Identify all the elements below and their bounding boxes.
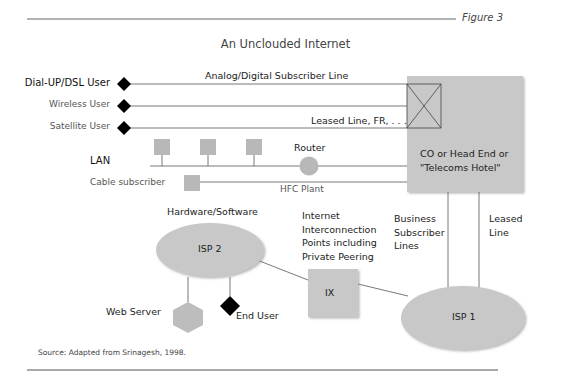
dialup-user-label: Dial-UP/DSL User (25, 77, 110, 88)
web-server-hexagon-icon (173, 302, 203, 333)
co-head-end-box (407, 76, 523, 192)
router-icon (300, 157, 319, 176)
satellite-user-diamond-icon (117, 121, 131, 135)
leased-line-fr-label: Leased Line, FR, . . . (311, 115, 407, 126)
interconnection-line: Points including (302, 236, 377, 250)
lan-host-icon (246, 139, 262, 166)
diagram-title: An Unclouded Internet (0, 37, 571, 51)
ix-isp1-link (358, 284, 408, 296)
hfc-plant-label: HFC Plant (280, 184, 324, 194)
interconnection-label: Internet Interconnection Points includin… (302, 209, 377, 263)
wireless-user-label: Wireless User (49, 99, 110, 109)
network-diagram (0, 0, 571, 389)
cable-subscriber-icon (184, 175, 200, 191)
hardware-software-label: Hardware/Software (167, 206, 258, 217)
lan-host-icon (200, 139, 216, 166)
leased-line-text: Line (489, 226, 523, 240)
cable-subscriber-label: Cable subscriber (90, 177, 165, 187)
leased-line-text: Leased (489, 212, 523, 226)
ix-label: IX (325, 287, 334, 298)
interconnection-line: Internet (302, 209, 377, 223)
business-subscriber-line-text: Lines (394, 239, 445, 253)
business-subscriber-line-text: Business (394, 212, 445, 226)
end-user-label: End User (236, 310, 279, 321)
interconnection-line: Private Peering (302, 250, 377, 264)
co-box-line1: CO or Head End or (420, 148, 509, 159)
wireless-user-diamond-icon (117, 99, 131, 113)
business-subscriber-line-text: Subscriber (394, 226, 445, 240)
router-label: Router (294, 142, 325, 153)
interconnection-line: Interconnection (302, 223, 377, 237)
dialup-user-diamond-icon (117, 77, 131, 91)
isp1-label: ISP 1 (452, 311, 476, 322)
source-caption: Source: Adapted from Srinagesh, 1998. (38, 348, 186, 357)
lan-label: LAN (90, 155, 110, 166)
figure-label: Figure 3 (462, 12, 503, 23)
web-server-label: Web Server (106, 306, 161, 317)
satellite-user-label: Satellite User (50, 121, 110, 131)
business-subscriber-label: Business Subscriber Lines (394, 212, 445, 253)
analog-digital-line-label: Analog/Digital Subscriber Line (205, 70, 348, 81)
leased-line-label: Leased Line (489, 212, 523, 239)
isp2-label: ISP 2 (198, 243, 222, 254)
lan-host-icon (154, 139, 170, 166)
isp2-ix-link (257, 260, 308, 280)
co-box-line2: "Telecoms Hotel" (420, 162, 501, 173)
